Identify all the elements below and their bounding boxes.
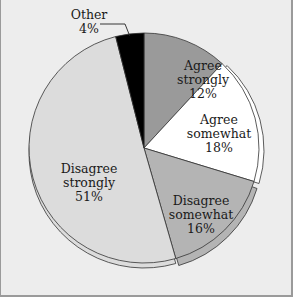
label-line: strongly xyxy=(61,176,118,190)
label-disagree-strongly: Disagree strongly 51% xyxy=(61,162,118,204)
label-line: strongly xyxy=(177,73,229,87)
label-percent: 18% xyxy=(187,141,251,155)
label-line: Agree xyxy=(187,113,251,127)
label-line: Disagree xyxy=(61,162,118,176)
label-percent: 12% xyxy=(177,87,229,101)
chart-frame: Agree strongly 12% Agree somewhat 18% Di… xyxy=(0,0,293,297)
label-percent: 16% xyxy=(169,222,233,236)
label-agree-somewhat: Agree somewhat 18% xyxy=(187,113,251,155)
label-line: Disagree xyxy=(169,194,233,208)
label-percent: 4% xyxy=(71,22,108,36)
label-line: Other xyxy=(71,8,108,22)
label-agree-strongly: Agree strongly 12% xyxy=(177,59,229,101)
label-line: somewhat xyxy=(187,127,251,141)
label-line: somewhat xyxy=(169,208,233,222)
label-other: Other 4% xyxy=(71,8,108,36)
label-line: Agree xyxy=(177,59,229,73)
label-disagree-somewhat: Disagree somewhat 16% xyxy=(169,194,233,236)
label-percent: 51% xyxy=(61,190,118,204)
